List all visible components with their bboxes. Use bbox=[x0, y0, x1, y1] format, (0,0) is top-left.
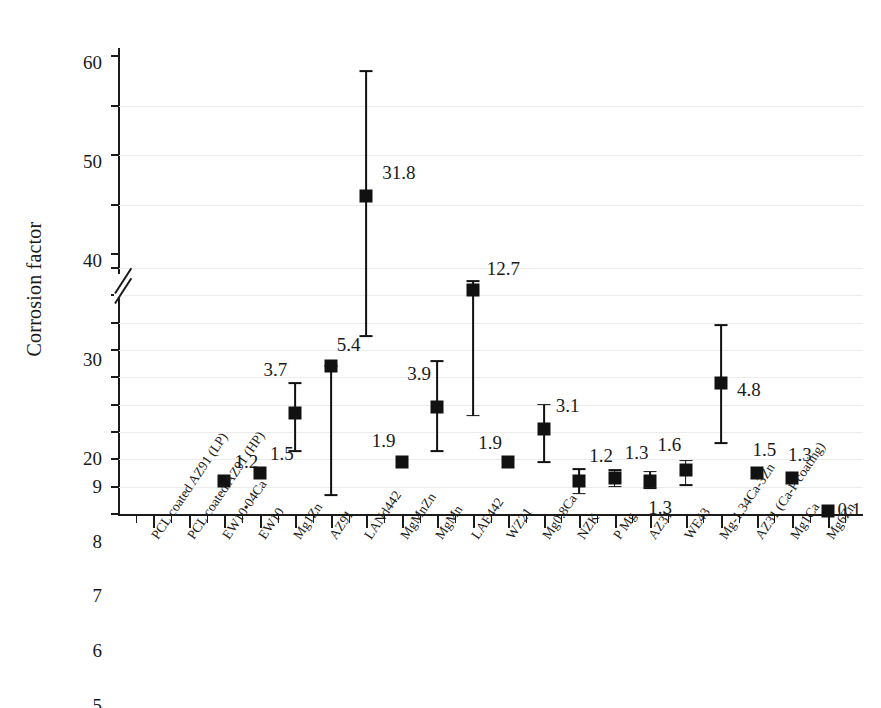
data-point-marker bbox=[360, 189, 373, 202]
data-point-label: 31.8 bbox=[382, 162, 415, 181]
error-bar-cap bbox=[644, 471, 657, 473]
error-bar-cap bbox=[608, 469, 621, 471]
y-axis-tick-label: 20 bbox=[83, 449, 102, 468]
y-axis-tick-label: 6 bbox=[93, 641, 103, 660]
data-point-marker bbox=[289, 406, 302, 419]
data-point-label: 1.6 bbox=[658, 435, 682, 454]
error-bar bbox=[472, 281, 474, 415]
data-point-label: 1.3 bbox=[625, 443, 649, 462]
y-axis-tick: 6 bbox=[111, 349, 119, 351]
y-axis-tick: 2 bbox=[111, 458, 119, 460]
data-point-label: 3.7 bbox=[263, 359, 287, 378]
error-bar-cap bbox=[679, 484, 692, 486]
error-bar-cap bbox=[679, 460, 692, 462]
error-bar-cap bbox=[324, 494, 337, 496]
y-axis-tick: 3 bbox=[111, 431, 119, 433]
data-point-label: 1.9 bbox=[478, 433, 502, 452]
error-bar bbox=[330, 366, 332, 494]
y-axis-title: Corrosion factor bbox=[23, 159, 53, 419]
y-axis-tick: 4 bbox=[111, 404, 119, 406]
gridline bbox=[118, 405, 863, 406]
gridline bbox=[118, 350, 863, 351]
error-bar-cap bbox=[573, 493, 586, 495]
error-bar-cap bbox=[360, 335, 373, 337]
gridline bbox=[118, 106, 863, 107]
y-axis-tick: 1 bbox=[111, 486, 119, 488]
y-axis-tick: 50 bbox=[111, 105, 119, 107]
data-point-marker bbox=[466, 284, 479, 297]
gridline bbox=[118, 323, 863, 324]
data-point-label: 3.9 bbox=[407, 364, 431, 383]
error-bar-cap bbox=[715, 324, 728, 326]
data-point-label: 1.9 bbox=[372, 431, 396, 450]
error-bar-cap bbox=[360, 70, 373, 72]
data-point-marker bbox=[502, 456, 515, 469]
error-bar-cap bbox=[289, 382, 302, 384]
error-bar bbox=[365, 71, 367, 336]
data-point-marker bbox=[324, 360, 337, 373]
data-point-marker bbox=[537, 423, 550, 436]
error-bar-cap bbox=[431, 450, 444, 452]
y-axis-tick-label: 8 bbox=[93, 532, 103, 551]
data-point-marker bbox=[431, 401, 444, 414]
y-axis-tick-label: 50 bbox=[83, 152, 102, 171]
data-point-marker bbox=[608, 472, 621, 485]
error-bar-cap bbox=[573, 468, 586, 470]
error-bar-cap bbox=[431, 360, 444, 362]
data-point-marker bbox=[395, 456, 408, 469]
data-point-label: 5.4 bbox=[337, 335, 361, 354]
data-point-label: 4.8 bbox=[737, 379, 761, 398]
data-point-marker bbox=[644, 475, 657, 488]
data-point-label: 1.2 bbox=[589, 446, 613, 465]
data-point-label: 1.5 bbox=[753, 440, 777, 459]
error-bar-cap bbox=[715, 442, 728, 444]
gridline bbox=[118, 155, 863, 156]
y-axis-tick-label: 60 bbox=[83, 53, 102, 72]
gridline bbox=[118, 295, 863, 296]
gridline bbox=[118, 205, 863, 206]
y-axis-tick-label: 40 bbox=[83, 251, 102, 270]
error-bar-cap bbox=[466, 280, 479, 282]
y-axis-tick: 30 bbox=[111, 204, 119, 206]
y-axis-tick: 40 bbox=[111, 154, 119, 156]
gridline bbox=[118, 459, 863, 460]
y-axis-tick: 7 bbox=[111, 322, 119, 324]
x-axis-minor-tick bbox=[136, 516, 137, 523]
y-axis-tick: 0 bbox=[111, 513, 119, 515]
y-axis-tick: 5 bbox=[111, 376, 119, 378]
data-point-label: 12.7 bbox=[487, 259, 520, 278]
plot-area: 01234567892030405060 1.21.53.75.431.81.9… bbox=[118, 48, 863, 514]
corrosion-factor-chart: Corrosion factor 01234567892030405060 1.… bbox=[0, 0, 881, 708]
data-point-label: 1.5 bbox=[270, 444, 294, 463]
data-point-marker bbox=[715, 376, 728, 389]
error-bar-cap bbox=[466, 415, 479, 417]
error-bar-cap bbox=[537, 404, 550, 406]
y-axis-tick: 60 bbox=[111, 55, 119, 57]
error-bar-cap bbox=[608, 486, 621, 488]
y-axis-tick-label: 7 bbox=[93, 586, 103, 605]
error-bar-cap bbox=[537, 461, 550, 463]
axis-break-icon bbox=[108, 268, 138, 304]
y-axis-tick: 20 bbox=[111, 253, 119, 255]
y-axis-tick-label: 30 bbox=[83, 350, 102, 369]
error-bar-cap bbox=[289, 450, 302, 452]
y-axis-tick-label: 5 bbox=[93, 696, 103, 708]
data-point-marker bbox=[679, 464, 692, 477]
data-point-label: 3.1 bbox=[556, 396, 580, 415]
y-axis-tick-label: 9 bbox=[93, 477, 103, 496]
data-point-marker bbox=[573, 475, 586, 488]
